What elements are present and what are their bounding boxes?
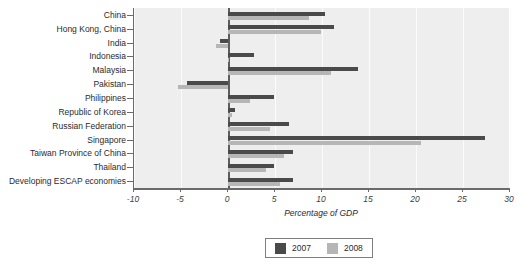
bar-2007-9 bbox=[228, 136, 485, 140]
category-label: Developing ESCAP economies bbox=[9, 176, 126, 186]
y-axis-tick bbox=[127, 29, 133, 30]
bar-2007-10 bbox=[228, 150, 293, 154]
x-axis-tick-label: 5 bbox=[272, 194, 277, 204]
plot-area bbox=[134, 8, 509, 188]
bar-2008-12 bbox=[228, 182, 280, 186]
chart-page: ChinaHong Kong, ChinaIndiaIndonesiaMalay… bbox=[0, 0, 525, 270]
category-label: Philippines bbox=[85, 93, 126, 103]
bar-2007-4 bbox=[228, 67, 358, 71]
gridline bbox=[322, 8, 323, 188]
chart-legend: 20072008 bbox=[265, 238, 373, 258]
category-label: Singapore bbox=[87, 135, 126, 145]
category-label: Taiwan Province of China bbox=[30, 148, 126, 158]
x-axis-tick-label: 10 bbox=[316, 194, 325, 204]
x-axis-tick-label: -10 bbox=[127, 194, 139, 204]
x-axis-tick-label: 30 bbox=[504, 194, 513, 204]
bar-2007-0 bbox=[228, 12, 325, 16]
bar-2007-2 bbox=[220, 39, 228, 43]
category-label: Russian Federation bbox=[52, 121, 126, 131]
bar-2007-12 bbox=[228, 178, 293, 182]
x-axis-tick bbox=[509, 188, 510, 192]
category-label: Pakistan bbox=[93, 79, 126, 89]
bar-2008-6 bbox=[228, 99, 250, 103]
x-axis-tick bbox=[415, 188, 416, 192]
x-axis-tick bbox=[180, 188, 181, 192]
y-axis-tick bbox=[127, 15, 133, 16]
x-axis-tick bbox=[274, 188, 275, 192]
gridline bbox=[134, 8, 135, 188]
x-axis-tick-label: 15 bbox=[363, 194, 372, 204]
x-axis-tick bbox=[321, 188, 322, 192]
gridline bbox=[181, 8, 182, 188]
gridline bbox=[510, 8, 511, 188]
category-label: India bbox=[108, 38, 126, 48]
legend-entry: 2007 bbox=[275, 243, 311, 254]
bar-2008-4 bbox=[228, 71, 331, 75]
x-axis-tick bbox=[133, 188, 134, 192]
bar-2008-5 bbox=[178, 85, 228, 89]
gridline bbox=[369, 8, 370, 188]
y-axis-tick bbox=[127, 56, 133, 57]
gridline bbox=[463, 8, 464, 188]
x-axis-tick-label: 25 bbox=[457, 194, 466, 204]
x-axis-tick bbox=[227, 188, 228, 192]
bar-2008-8 bbox=[228, 127, 270, 131]
y-axis-tick bbox=[127, 112, 133, 113]
gridline bbox=[416, 8, 417, 188]
y-axis-tick bbox=[127, 126, 133, 127]
bar-2008-0 bbox=[228, 16, 309, 20]
legend-label: 2007 bbox=[292, 243, 311, 253]
bar-2008-11 bbox=[228, 168, 266, 172]
y-axis-tick bbox=[127, 98, 133, 99]
y-axis-tick bbox=[127, 167, 133, 168]
category-label: Thailand bbox=[93, 162, 126, 172]
bar-2007-11 bbox=[228, 164, 274, 168]
bar-2008-2 bbox=[216, 44, 228, 48]
bar-2007-6 bbox=[228, 95, 274, 99]
category-label: Republic of Korea bbox=[58, 107, 126, 117]
bar-2008-9 bbox=[228, 141, 421, 145]
x-axis-tick bbox=[462, 188, 463, 192]
y-axis-tick bbox=[127, 70, 133, 71]
y-axis-tick bbox=[127, 43, 133, 44]
legend-swatch-icon bbox=[275, 243, 286, 254]
gridline bbox=[275, 8, 276, 188]
bar-2007-1 bbox=[228, 25, 334, 29]
category-label: Malaysia bbox=[92, 65, 126, 75]
y-axis-tick bbox=[127, 140, 133, 141]
x-axis-tick-label: 20 bbox=[410, 194, 419, 204]
x-axis-tick-label: -5 bbox=[176, 194, 184, 204]
category-label: Indonesia bbox=[89, 51, 126, 61]
bar-2008-7 bbox=[228, 113, 232, 117]
x-axis-title: Percentage of GDP bbox=[133, 208, 509, 218]
x-axis-tick bbox=[368, 188, 369, 192]
bar-2008-10 bbox=[228, 154, 284, 158]
bar-2007-8 bbox=[228, 122, 289, 126]
y-axis-tick bbox=[127, 84, 133, 85]
legend-swatch-icon bbox=[327, 243, 338, 254]
category-label: Hong Kong, China bbox=[57, 24, 126, 34]
category-label: China bbox=[104, 10, 126, 20]
bar-2008-1 bbox=[228, 30, 321, 34]
y-axis-tick bbox=[127, 181, 133, 182]
y-axis-tick bbox=[127, 153, 133, 154]
x-axis-tick-label: 0 bbox=[225, 194, 230, 204]
bar-2007-7 bbox=[228, 108, 235, 112]
legend-label: 2008 bbox=[344, 243, 363, 253]
bar-2007-5 bbox=[187, 81, 228, 85]
legend-entry: 2008 bbox=[327, 243, 363, 254]
plot-frame bbox=[133, 8, 509, 188]
bar-2007-3 bbox=[228, 53, 254, 57]
bar-2008-3 bbox=[228, 58, 229, 62]
